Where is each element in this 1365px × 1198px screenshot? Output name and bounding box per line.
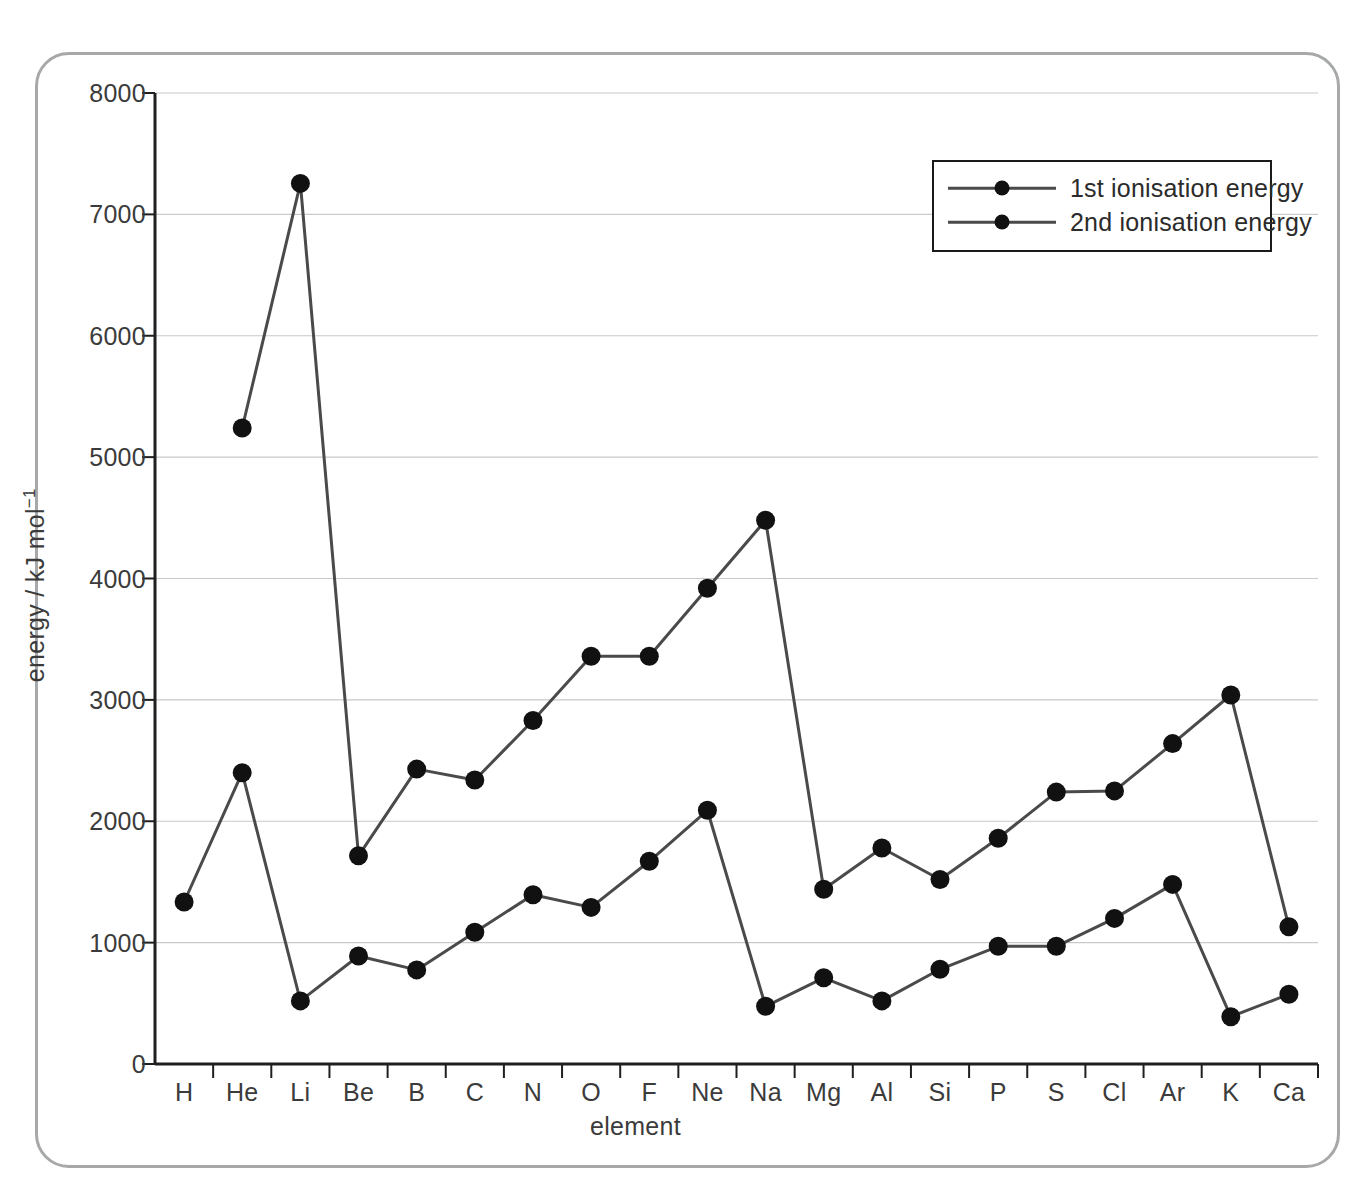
x-axis-title-text: element	[590, 1112, 681, 1141]
legend-marker-icon	[948, 213, 1056, 231]
x-tick-label: H	[175, 1078, 193, 1107]
series-line	[184, 773, 1289, 1017]
y-tick-label: 7000	[89, 200, 146, 229]
series-line	[242, 183, 1289, 926]
data-point	[698, 801, 717, 820]
data-point	[407, 960, 426, 979]
data-point	[1047, 783, 1066, 802]
x-tick-label: K	[1222, 1078, 1239, 1107]
data-point	[349, 846, 368, 865]
data-point	[1047, 937, 1066, 956]
legend-label: 2nd ionisation energy	[1070, 208, 1312, 237]
data-point	[1279, 985, 1298, 1004]
data-point	[931, 960, 950, 979]
x-tick-label: Cl	[1102, 1078, 1126, 1107]
x-tick-label: P	[990, 1078, 1007, 1107]
data-point	[175, 893, 194, 912]
x-tick-label: Ar	[1160, 1078, 1186, 1107]
data-point	[640, 647, 659, 666]
y-tick-label: 1000	[89, 928, 146, 957]
y-axis-title: energy / kJ mol−1	[20, 385, 50, 785]
y-tick-label: 8000	[89, 79, 146, 108]
y-axis-title-text: energy / kJ mol	[21, 508, 49, 682]
data-point	[1279, 917, 1298, 936]
data-point	[872, 839, 891, 858]
y-axis-title-exponent: −1	[20, 488, 39, 508]
data-point	[582, 898, 601, 917]
data-point	[1163, 734, 1182, 753]
x-tick-label: O	[581, 1078, 601, 1107]
x-tick-label: Mg	[806, 1078, 841, 1107]
data-point	[233, 419, 252, 438]
x-tick-label: F	[641, 1078, 657, 1107]
data-point	[465, 923, 484, 942]
legend-marker-icon	[948, 179, 1056, 197]
data-point	[524, 885, 543, 904]
x-axis-title: element	[0, 1112, 1365, 1141]
x-tick-label: Ne	[691, 1078, 724, 1107]
data-series-layer	[175, 174, 1299, 1026]
data-point	[1105, 781, 1124, 800]
x-tick-label: C	[466, 1078, 484, 1107]
data-point	[989, 937, 1008, 956]
y-tick-label: 5000	[89, 443, 146, 472]
data-point	[756, 997, 775, 1016]
data-point	[1163, 875, 1182, 894]
data-point	[814, 968, 833, 987]
data-point	[931, 870, 950, 889]
data-point	[524, 711, 543, 730]
data-point	[465, 771, 484, 790]
legend-item-2nd-ionisation-energy[interactable]: 2nd ionisation energy	[948, 205, 1256, 239]
data-point	[582, 647, 601, 666]
y-tick-label: 6000	[89, 321, 146, 350]
data-point	[756, 511, 775, 530]
data-point	[1221, 1007, 1240, 1026]
data-point	[291, 174, 310, 193]
x-tick-label: Na	[749, 1078, 782, 1107]
data-point	[349, 947, 368, 966]
ionisation-energy-chart: 010002000300040005000600070008000 HHeLiB…	[0, 0, 1365, 1198]
legend-label: 1st ionisation energy	[1070, 174, 1304, 203]
x-tick-label: Al	[870, 1078, 893, 1107]
y-tick-label: 0	[132, 1050, 146, 1079]
data-point	[407, 760, 426, 779]
x-tick-label: S	[1048, 1078, 1065, 1107]
legend-item-1st-ionisation-energy[interactable]: 1st ionisation energy	[948, 171, 1256, 205]
data-point	[698, 579, 717, 598]
data-point	[233, 763, 252, 782]
data-point	[814, 880, 833, 899]
data-point	[640, 852, 659, 871]
data-point	[1105, 909, 1124, 928]
y-tick-label: 2000	[89, 807, 146, 836]
x-tick-label: B	[408, 1078, 425, 1107]
x-tick-label: Si	[929, 1078, 952, 1107]
data-point	[1221, 686, 1240, 705]
x-tick-label: Ca	[1273, 1078, 1306, 1107]
y-tick-label: 3000	[89, 685, 146, 714]
x-tick-label: Li	[290, 1078, 310, 1107]
y-tick-label: 4000	[89, 564, 146, 593]
x-tick-label: He	[226, 1078, 259, 1107]
x-tick-label: Be	[343, 1078, 374, 1107]
data-point	[989, 829, 1008, 848]
series-2	[233, 174, 1299, 936]
data-point	[291, 991, 310, 1010]
x-tick-label: N	[524, 1078, 542, 1107]
chart-legend: 1st ionisation energy 2nd ionisation ene…	[932, 160, 1272, 252]
series-1	[175, 763, 1299, 1026]
data-point	[872, 991, 891, 1010]
